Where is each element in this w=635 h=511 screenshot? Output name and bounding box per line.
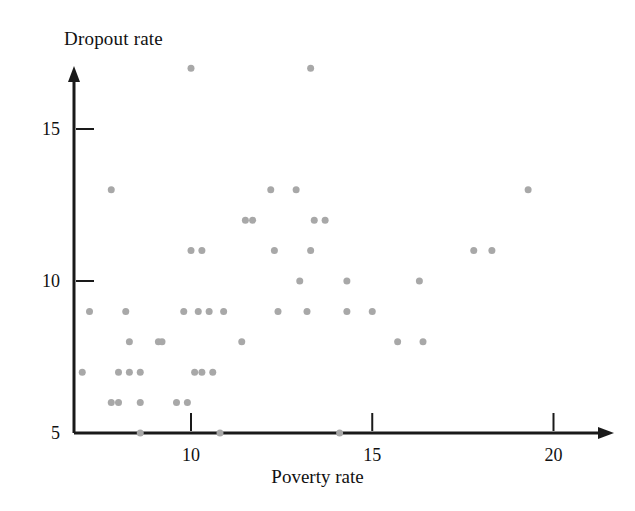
data-point (343, 308, 350, 315)
data-point (369, 308, 376, 315)
data-point (238, 338, 245, 345)
svg-text:15: 15 (42, 119, 60, 139)
svg-text:10: 10 (42, 271, 60, 291)
data-point (86, 308, 93, 315)
svg-text:10: 10 (182, 445, 200, 465)
data-point (220, 308, 227, 315)
data-point (180, 308, 187, 315)
data-point (416, 278, 423, 285)
data-point (108, 186, 115, 193)
data-point (159, 338, 166, 345)
data-point (79, 369, 86, 376)
data-point (191, 369, 198, 376)
data-point (198, 247, 205, 254)
data-point (271, 247, 278, 254)
scatter-plot-figure: Dropout rate 10152051015 Poverty rate (0, 0, 635, 511)
data-point (311, 217, 318, 224)
data-point (488, 247, 495, 254)
data-point (206, 308, 213, 315)
x-axis-title: Poverty rate (0, 466, 635, 488)
data-point (122, 308, 129, 315)
axes (68, 66, 614, 439)
data-point (296, 278, 303, 285)
data-point (137, 369, 144, 376)
data-point (184, 399, 191, 406)
data-point (137, 399, 144, 406)
data-point (195, 308, 202, 315)
data-point (336, 430, 343, 437)
data-point (242, 217, 249, 224)
data-point (322, 217, 329, 224)
data-point (126, 338, 133, 345)
data-point (307, 65, 314, 72)
data-point (108, 399, 115, 406)
data-point (209, 369, 216, 376)
data-point (249, 217, 256, 224)
data-point (198, 369, 205, 376)
data-point (307, 247, 314, 254)
svg-text:5: 5 (51, 423, 60, 443)
data-point (126, 369, 133, 376)
data-point (525, 186, 532, 193)
data-points (79, 65, 532, 437)
data-point (343, 278, 350, 285)
svg-text:15: 15 (363, 445, 381, 465)
axis-ticks (76, 129, 554, 431)
data-point (293, 186, 300, 193)
data-point (217, 430, 224, 437)
data-point (394, 338, 401, 345)
data-point (304, 308, 311, 315)
data-point (137, 430, 144, 437)
data-point (420, 338, 427, 345)
data-point (470, 247, 477, 254)
data-point (115, 369, 122, 376)
data-point (188, 247, 195, 254)
data-point (275, 308, 282, 315)
data-point (188, 65, 195, 72)
data-point (115, 399, 122, 406)
plot-canvas: 10152051015 (0, 0, 635, 511)
svg-text:20: 20 (545, 445, 563, 465)
axis-tick-labels: 10152051015 (42, 119, 563, 465)
data-point (173, 399, 180, 406)
data-point (267, 186, 274, 193)
